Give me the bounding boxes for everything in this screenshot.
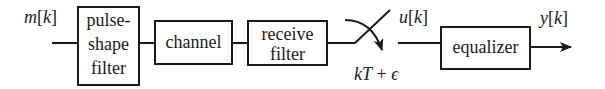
pulse-shape-label-line1: pulse- [87, 10, 131, 30]
pulse-shape-label-line3: filter [91, 58, 126, 78]
receive-filter-block: receive filter [248, 21, 327, 65]
channel-block: channel [155, 21, 232, 64]
channel-label: channel [166, 32, 222, 52]
receive-filter-label-line2: filter [270, 44, 305, 64]
pulse-shape-label-line2: shape [88, 34, 129, 54]
sampled-signal-label: u[k] [399, 7, 428, 27]
sampler-switch [327, 10, 390, 50]
switch-arm [355, 10, 390, 43]
receive-filter-label-line1: receive [262, 24, 314, 44]
output-signal-label: y[k] [538, 8, 568, 28]
sampling-time-label: kT + ϵ [354, 64, 399, 84]
input-signal-label: m[k] [24, 7, 57, 27]
block-diagram: m[k] pulse- shape filter channel receive… [0, 0, 605, 89]
pulse-shape-filter-block: pulse- shape filter [78, 7, 139, 85]
diagram-canvas: m[k] pulse- shape filter channel receive… [0, 0, 605, 89]
equalizer-label: equalizer [453, 37, 519, 57]
equalizer-block: equalizer [441, 27, 530, 69]
